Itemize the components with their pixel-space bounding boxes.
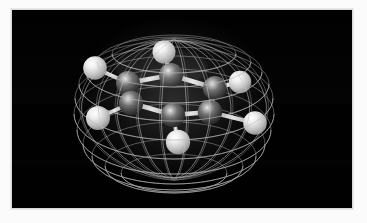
molecule-scene[interactable]: Benzene pi-electron density isosurface C… — [12, 10, 352, 208]
mesh-highlight — [116, 48, 208, 88]
molecule-svg: Benzene pi-electron density isosurface C… — [12, 10, 352, 208]
molecular-visualization-figure: Benzene pi-electron density isosurface C… — [0, 0, 367, 223]
atom-c3 — [203, 76, 227, 100]
atom-c5 — [161, 103, 185, 127]
atom-h5 — [166, 130, 190, 154]
atom-h3 — [229, 71, 251, 93]
render-canvas[interactable]: Benzene pi-electron density isosurface C… — [12, 10, 352, 208]
